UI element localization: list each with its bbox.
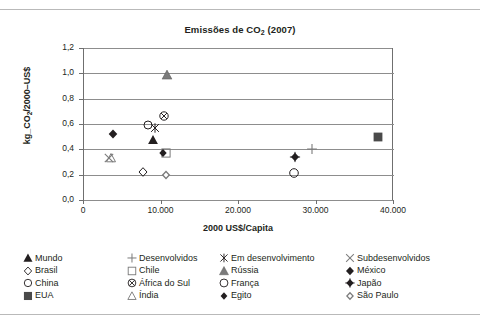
- legend-column-3: Em desenvolvimentoRússiaFrançaEgito: [218, 252, 315, 302]
- x-axis-title: 2000 US$/Capita: [83, 223, 393, 233]
- y-tick-label: 1,0: [46, 68, 74, 77]
- gridline: [84, 73, 394, 74]
- x-tick-mark: [238, 200, 239, 204]
- x-tick-label: 40.000: [363, 206, 423, 215]
- chart-title: Emissões de CO2 (2007): [0, 24, 480, 36]
- figure-page: Emissões de CO2 (2007) kg_CO2/2000–US$ 0…: [0, 0, 480, 324]
- gridline: [84, 124, 394, 125]
- legend-marker-diamond-double-icon: [344, 290, 356, 302]
- legend-item-índia[interactable]: Índia: [126, 290, 198, 303]
- legend-item-rússia[interactable]: Rússia: [218, 265, 315, 278]
- y-axis-title: kg_CO2/2000–US$: [22, 41, 33, 171]
- legend-column-2: DesenvolvidosChileÁfrica do SulÍndia: [126, 252, 198, 302]
- legend-column-1: MundoBrasilChinaEUA: [22, 252, 63, 302]
- legend-label: Desenvolvidos: [139, 254, 198, 263]
- legend-marker-asterisk-icon: [218, 252, 230, 264]
- legend-label: Egito: [231, 291, 252, 300]
- legend-marker-diamond-plus-icon: [344, 277, 356, 289]
- gridline: [84, 175, 394, 176]
- legend-label: França: [231, 279, 259, 288]
- legend-item-frança[interactable]: França: [218, 277, 315, 290]
- data-point-japão: [288, 150, 301, 163]
- data-point-eua: [371, 130, 384, 143]
- legend-item-são-paulo[interactable]: São Paulo: [344, 290, 430, 303]
- x-tick-label: 30.000: [286, 206, 346, 215]
- chart-title-year: (2007): [265, 24, 296, 35]
- y-axis-title-rest: /2000–US$: [22, 67, 32, 112]
- legend-item-chile[interactable]: Chile: [126, 265, 198, 278]
- page-rule-top: [0, 9, 480, 10]
- y-tick-mark: [79, 175, 83, 176]
- legend-marker-triangle-filled-icon: [22, 252, 34, 264]
- y-tick-label: 1,2: [46, 43, 74, 52]
- chart-title-main: Emissões de CO: [184, 24, 260, 35]
- legend-marker-plus-icon: [126, 252, 138, 264]
- legend-item-subdesenvolvidos[interactable]: Subdesenvolvidos: [344, 252, 430, 265]
- legend-item-mundo[interactable]: Mundo: [22, 252, 63, 265]
- x-tick-mark: [393, 200, 394, 204]
- y-tick-mark: [79, 124, 83, 125]
- x-tick-mark: [316, 200, 317, 204]
- y-tick-label: 0,2: [46, 170, 74, 179]
- chart-legend: MundoBrasilChinaEUADesenvolvidosChileÁfr…: [22, 252, 458, 306]
- gridline: [84, 149, 394, 150]
- legend-label: Subdesenvolvidos: [357, 254, 430, 263]
- x-tick-mark: [83, 200, 84, 204]
- legend-label: Índia: [139, 291, 159, 300]
- gridline: [84, 99, 394, 100]
- legend-label: Chile: [139, 266, 160, 275]
- y-tick-mark: [79, 73, 83, 74]
- plot-area: [83, 48, 393, 200]
- x-tick-label: 0: [53, 206, 113, 215]
- legend-item-eua[interactable]: EUA: [22, 290, 63, 303]
- x-tick-mark: [161, 200, 162, 204]
- data-point-índia: [104, 152, 117, 165]
- data-point-áfrica-do-sul: [158, 109, 171, 122]
- legend-marker-diamond-open-icon: [22, 265, 34, 277]
- legend-label: Brasil: [35, 266, 58, 275]
- legend-item-china[interactable]: China: [22, 277, 63, 290]
- data-point-mundo: [146, 134, 159, 147]
- legend-marker-circle-open-icon: [22, 277, 34, 289]
- data-point-desenvolvidos: [305, 143, 318, 156]
- y-tick-label: 0,6: [46, 119, 74, 128]
- legend-item-desenvolvidos[interactable]: Desenvolvidos: [126, 252, 198, 265]
- y-tick-mark: [79, 48, 83, 49]
- data-point-china: [142, 119, 155, 132]
- legend-marker-triangle-open-icon: [126, 290, 138, 302]
- legend-column-4: SubdesenvolvidosMéxicoJapãoSão Paulo: [344, 252, 430, 302]
- legend-item-áfrica-do-sul[interactable]: África do Sul: [126, 277, 198, 290]
- legend-item-egito[interactable]: Egito: [218, 290, 315, 303]
- data-point-rússia: [160, 68, 173, 81]
- legend-label: Rússia: [231, 266, 259, 275]
- legend-marker-cross-icon: [344, 252, 356, 264]
- legend-label: África do Sul: [139, 279, 190, 288]
- data-point-são-paulo: [159, 169, 172, 182]
- legend-item-japão[interactable]: Japão: [344, 277, 430, 290]
- y-tick-label: 0,8: [46, 94, 74, 103]
- legend-marker-square-filled-icon: [22, 290, 34, 302]
- legend-marker-diamond-filled-small-icon: [218, 290, 230, 302]
- legend-label: São Paulo: [357, 291, 399, 300]
- data-point-frança: [287, 167, 300, 180]
- legend-label: EUA: [35, 291, 54, 300]
- legend-item-méxico[interactable]: México: [344, 265, 430, 278]
- x-tick-label: 10.000: [131, 206, 191, 215]
- data-point-brasil: [136, 166, 149, 179]
- legend-label: México: [357, 266, 386, 275]
- data-point-méxico: [107, 128, 120, 141]
- legend-marker-circle-open-large-icon: [218, 277, 230, 289]
- legend-label: Em desenvolvimento: [231, 254, 315, 263]
- y-tick-mark: [79, 149, 83, 150]
- y-tick-label: 0,4: [46, 144, 74, 153]
- y-axis-title-subscript: 2: [26, 112, 33, 116]
- legend-marker-square-open-icon: [126, 265, 138, 277]
- legend-label: Japão: [357, 279, 382, 288]
- legend-item-em-desenvolvimento[interactable]: Em desenvolvimento: [218, 252, 315, 265]
- legend-marker-triangle-gray-icon: [218, 265, 230, 277]
- x-tick-label: 20.000: [208, 206, 268, 215]
- legend-item-brasil[interactable]: Brasil: [22, 265, 63, 278]
- gridline: [84, 200, 394, 201]
- legend-marker-diamond-filled-icon: [344, 265, 356, 277]
- legend-marker-circle-cross-icon: [126, 277, 138, 289]
